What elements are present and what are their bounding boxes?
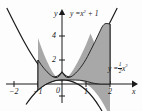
x-tick-label-minus1: −1 (33, 88, 42, 96)
x-tick-label-minus2: −2 (9, 88, 18, 96)
x-tick-label-2: 2 (108, 88, 112, 96)
x-tick-label-1: 1 (84, 88, 88, 96)
upper-curve-equation-label: y =x2 + 1 (70, 10, 99, 18)
math-figure: −2 −1 1 2 2 4 0 x y y =x2 + 1 y =12x3 (0, 0, 142, 111)
lower-eq-lhs: y = (108, 64, 118, 73)
upper-eq-tail: + 1 (88, 9, 99, 18)
upper-eq-lhs: y = (70, 9, 80, 18)
upper-eq-exp: 2 (84, 9, 86, 14)
lower-eq-exp: 3 (125, 63, 127, 68)
y-axis-label: y (54, 10, 58, 18)
x-axis-label: x (132, 88, 136, 96)
shaded-region-fill (38, 23, 110, 90)
y-tick-label-2: 2 (52, 56, 56, 64)
origin-label: 0 (56, 87, 60, 95)
lower-curve-equation-label: y =12x3 (108, 62, 128, 74)
y-tick-label-4: 4 (52, 32, 56, 40)
